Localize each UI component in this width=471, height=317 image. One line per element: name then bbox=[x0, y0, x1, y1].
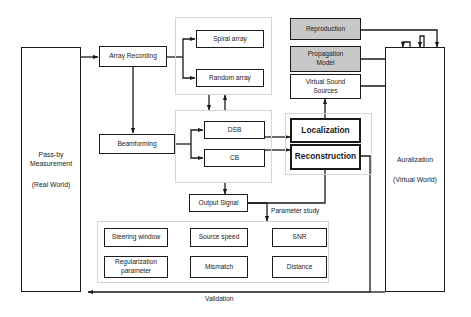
auralization-line-2: (Virtual World) bbox=[393, 175, 437, 184]
localization-label: Localization bbox=[301, 125, 349, 136]
node-steering-window[interactable]: Steering window bbox=[104, 228, 168, 247]
pass-by-line-1: Pass-by bbox=[39, 150, 64, 159]
virtual-sound-sources-line-2: Sources bbox=[306, 87, 345, 96]
auralization-line-1: Auralization bbox=[397, 155, 433, 164]
node-cb[interactable]: CB bbox=[204, 149, 265, 167]
regularization-parameter-line-1: Regularization bbox=[115, 258, 157, 267]
node-snr[interactable]: SNR bbox=[272, 228, 327, 247]
diagram-canvas: Pass-by Measurement (Real World) Auraliz… bbox=[0, 0, 471, 317]
node-reconstruction[interactable]: Reconstruction bbox=[290, 144, 361, 170]
edge-output-signal-to-parameter-study bbox=[248, 203, 267, 221]
node-regularization-parameter[interactable]: Regularization parameter bbox=[104, 256, 168, 278]
node-virtual-sound-sources[interactable]: Virtual Sound Sources bbox=[290, 74, 361, 99]
random-array-label: Random array bbox=[209, 74, 251, 83]
node-propagation-model[interactable]: Propagation Model bbox=[290, 46, 361, 72]
label-validation: Validation bbox=[205, 295, 233, 302]
cb-label: CB bbox=[230, 154, 239, 163]
node-random-array[interactable]: Random array bbox=[196, 69, 264, 87]
mismatch-label: Mismatch bbox=[205, 263, 233, 272]
node-distance[interactable]: Distance bbox=[272, 256, 327, 278]
node-pass-by-measurement[interactable]: Pass-by Measurement (Real World) bbox=[21, 47, 81, 292]
node-output-signal[interactable]: Output Signal bbox=[189, 194, 248, 212]
propagation-model-line-2: Model bbox=[308, 59, 344, 68]
node-auralization[interactable]: Auralization (Virtual World) bbox=[385, 47, 445, 292]
propagation-model-line-1: Propagation bbox=[308, 50, 344, 59]
node-array-recording[interactable]: Array Recording bbox=[99, 46, 167, 67]
pass-by-line-3: (Real World) bbox=[32, 180, 71, 189]
dsb-label: DSB bbox=[228, 126, 242, 135]
source-speed-label: Source speed bbox=[199, 233, 240, 242]
node-spiral-array[interactable]: Spiral array bbox=[196, 30, 264, 48]
array-recording-label: Array Recording bbox=[109, 52, 157, 61]
regularization-parameter-line-2: parameter bbox=[115, 267, 157, 276]
node-dsb[interactable]: DSB bbox=[204, 121, 265, 139]
snr-label: SNR bbox=[293, 233, 307, 242]
distance-label: Distance bbox=[287, 263, 313, 272]
output-signal-label: Output Signal bbox=[199, 199, 239, 208]
pass-by-line-2: Measurement bbox=[30, 159, 72, 168]
edge-reproduction-to-auralization bbox=[361, 30, 437, 47]
node-localization[interactable]: Localization bbox=[290, 118, 361, 143]
virtual-sound-sources-line-1: Virtual Sound bbox=[306, 78, 345, 87]
node-source-speed[interactable]: Source speed bbox=[190, 228, 248, 247]
node-mismatch[interactable]: Mismatch bbox=[190, 256, 248, 278]
label-parameter-study: Parameter study bbox=[271, 207, 319, 214]
beamforming-label: Beamforming bbox=[117, 140, 156, 149]
reproduction-label: Reproduction bbox=[306, 25, 345, 34]
steering-window-label: Steering window bbox=[112, 233, 160, 242]
reconstruction-label: Reconstruction bbox=[295, 151, 356, 162]
spiral-array-label: Spiral array bbox=[213, 35, 247, 44]
node-beamforming[interactable]: Beamforming bbox=[99, 134, 175, 154]
node-reproduction[interactable]: Reproduction bbox=[290, 18, 361, 40]
